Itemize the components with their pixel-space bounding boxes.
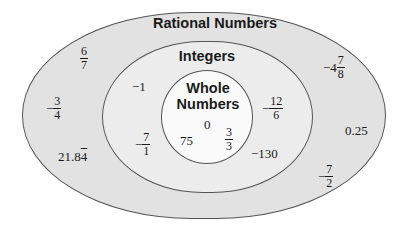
integer-member-neg-7-1: −71	[135, 132, 150, 157]
integer-member-neg-1: −1	[132, 80, 146, 93]
rational-member-6-7: 67	[80, 46, 88, 71]
whole-numbers-label: Whole Numbers	[170, 80, 246, 112]
rational-member-0-25: 0.25	[345, 124, 368, 137]
rational-numbers-label: Rational Numbers	[150, 15, 280, 31]
whole-member-3-3: 33	[225, 127, 233, 152]
integers-label: Integers	[172, 48, 242, 64]
whole-numbers-label-line1: Whole	[170, 80, 246, 96]
integer-member-neg-130: −130	[251, 147, 278, 160]
rational-member-neg-3-4: −34	[46, 96, 61, 121]
integer-member-neg-12-6: −126	[262, 96, 283, 121]
rational-member-neg-7-2: −72	[318, 164, 333, 189]
whole-numbers-label-line2: Numbers	[170, 96, 246, 112]
whole-member-0: 0	[204, 118, 211, 131]
rational-member-neg-4-7-8: −478	[323, 55, 345, 80]
whole-member-75: 75	[180, 134, 193, 147]
rational-numbers-venn-diagram: Rational Numbers Integers Whole Numbers …	[0, 0, 414, 230]
rational-member-21-84-repeating: 21.84	[58, 150, 87, 163]
